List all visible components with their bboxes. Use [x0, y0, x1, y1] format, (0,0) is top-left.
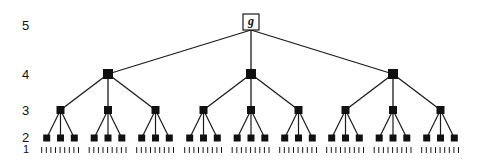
level-2-node: [309, 135, 316, 142]
level-2-node: [342, 135, 349, 142]
level-2-node: [166, 135, 173, 142]
level-3-node: [342, 106, 350, 114]
level-3-node: [247, 106, 255, 114]
level-2-node: [403, 135, 410, 142]
level-2-node: [234, 135, 241, 142]
level-4-node: [246, 69, 256, 79]
level-4-node: [388, 69, 398, 79]
level-2-node: [376, 135, 383, 142]
level-2-node: [138, 135, 145, 142]
level-3-node: [389, 106, 397, 114]
level-2-node: [118, 135, 125, 142]
level-2-node: [261, 135, 268, 142]
level-2-node: [200, 135, 207, 142]
level-2-node: [57, 135, 64, 142]
level-2-node: [390, 135, 397, 142]
hierarchy-tree-diagram: 5 4 3 2 1 g: [0, 0, 483, 164]
level-2-node: [105, 135, 112, 142]
level-2-node: [356, 135, 363, 142]
level-2-node: [423, 135, 430, 142]
level-2-node: [328, 135, 335, 142]
level-2-node: [214, 135, 221, 142]
level-3-node: [104, 106, 112, 114]
level-3-node: [437, 106, 445, 114]
level-2-node: [248, 135, 255, 142]
level-3-node: [57, 106, 65, 114]
level-3-node: [295, 106, 303, 114]
level-2-node: [43, 135, 50, 142]
root-label: g: [247, 14, 254, 28]
level-2-node: [71, 135, 78, 142]
level-2-node: [152, 135, 159, 142]
tree-graphic: g: [0, 0, 483, 164]
level-2-node: [186, 135, 193, 142]
level-4-node: [103, 69, 113, 79]
level-2-node: [437, 135, 444, 142]
level-2-node: [91, 135, 98, 142]
level-2-node: [451, 135, 458, 142]
level-2-node: [295, 135, 302, 142]
level-3-node: [152, 106, 160, 114]
level-2-node: [281, 135, 288, 142]
level-3-node: [200, 106, 208, 114]
